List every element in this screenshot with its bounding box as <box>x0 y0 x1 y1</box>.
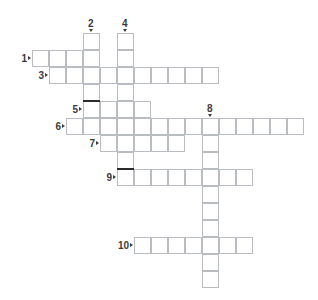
crossword-cell[interactable] <box>202 203 219 220</box>
crossword-cell[interactable] <box>202 186 219 203</box>
crossword-cell[interactable] <box>134 135 151 152</box>
crossword-cell[interactable] <box>134 237 151 254</box>
clue-number-2-down: 2 <box>88 19 94 29</box>
arrow-down-icon <box>208 114 212 117</box>
block-bar <box>83 100 100 102</box>
crossword-cell[interactable] <box>151 169 168 186</box>
crossword-cell[interactable] <box>49 50 66 67</box>
crossword-cell[interactable] <box>66 67 83 84</box>
crossword-cell[interactable] <box>32 50 49 67</box>
clue-number-7-across: 7 <box>81 139 95 149</box>
crossword-cell[interactable] <box>236 237 253 254</box>
crossword-cell[interactable] <box>219 118 236 135</box>
crossword-cell[interactable] <box>253 118 270 135</box>
crossword-cell[interactable] <box>117 169 134 186</box>
crossword-cell[interactable] <box>202 220 219 237</box>
arrow-down-icon <box>123 29 127 32</box>
crossword-cell[interactable] <box>117 135 134 152</box>
crossword-cell[interactable] <box>202 67 219 84</box>
crossword-cell[interactable] <box>202 271 219 288</box>
arrow-right-icon <box>79 107 82 111</box>
clue-number-1-across: 1 <box>13 54 27 64</box>
arrow-right-icon <box>96 141 99 145</box>
crossword-cell[interactable] <box>168 169 185 186</box>
crossword-cell[interactable] <box>100 101 117 118</box>
crossword-cell[interactable] <box>134 118 151 135</box>
crossword-cell[interactable] <box>100 67 117 84</box>
crossword-cell[interactable] <box>185 169 202 186</box>
crossword-cell[interactable] <box>117 50 134 67</box>
crossword-cell[interactable] <box>202 135 219 152</box>
arrow-right-icon <box>62 124 65 128</box>
clue-number-8-down: 8 <box>207 104 213 114</box>
crossword-cell[interactable] <box>83 33 100 50</box>
crossword-cell[interactable] <box>202 118 219 135</box>
crossword-cell[interactable] <box>100 118 117 135</box>
crossword-cell[interactable] <box>117 101 134 118</box>
crossword-cell[interactable] <box>134 169 151 186</box>
arrow-down-icon <box>89 29 93 32</box>
crossword-cell[interactable] <box>151 67 168 84</box>
crossword-cell[interactable] <box>185 67 202 84</box>
crossword-cell[interactable] <box>168 135 185 152</box>
clue-number-9-across: 9 <box>98 173 112 183</box>
crossword-cell[interactable] <box>202 169 219 186</box>
arrow-right-icon <box>45 73 48 77</box>
crossword-cell[interactable] <box>117 33 134 50</box>
arrow-right-icon <box>28 56 31 60</box>
crossword-cell[interactable] <box>49 67 66 84</box>
block-bar <box>117 168 134 170</box>
clue-number-6-across: 6 <box>47 122 61 132</box>
crossword-cell[interactable] <box>219 169 236 186</box>
crossword-cell[interactable] <box>168 237 185 254</box>
crossword-cell[interactable] <box>151 118 168 135</box>
crossword-cell[interactable] <box>202 254 219 271</box>
crossword-cell[interactable] <box>83 84 100 101</box>
crossword-cell[interactable] <box>151 237 168 254</box>
crossword-cell[interactable] <box>202 237 219 254</box>
crossword-grid[interactable]: 12345678910 <box>0 0 318 300</box>
arrow-right-icon <box>130 243 133 247</box>
crossword-cell[interactable] <box>287 118 304 135</box>
crossword-cell[interactable] <box>134 67 151 84</box>
arrow-right-icon <box>113 175 116 179</box>
crossword-cell[interactable] <box>202 152 219 169</box>
clue-number-10-across: 10 <box>115 241 129 251</box>
clue-number-4-down: 4 <box>122 19 128 29</box>
crossword-cell[interactable] <box>117 67 134 84</box>
crossword-cell[interactable] <box>168 67 185 84</box>
crossword-cell[interactable] <box>236 169 253 186</box>
crossword-cell[interactable] <box>83 50 100 67</box>
crossword-cell[interactable] <box>168 118 185 135</box>
crossword-cell[interactable] <box>83 118 100 135</box>
crossword-cell[interactable] <box>151 135 168 152</box>
crossword-cell[interactable] <box>83 67 100 84</box>
clue-number-3-across: 3 <box>30 71 44 81</box>
crossword-cell[interactable] <box>117 118 134 135</box>
crossword-cell[interactable] <box>185 237 202 254</box>
crossword-cell[interactable] <box>66 118 83 135</box>
crossword-cell[interactable] <box>185 118 202 135</box>
crossword-cell[interactable] <box>66 50 83 67</box>
crossword-cell[interactable] <box>219 237 236 254</box>
crossword-cell[interactable] <box>117 152 134 169</box>
crossword-cell[interactable] <box>236 118 253 135</box>
crossword-cell[interactable] <box>134 101 151 118</box>
crossword-cell[interactable] <box>100 135 117 152</box>
crossword-cell[interactable] <box>117 84 134 101</box>
crossword-cell[interactable] <box>270 118 287 135</box>
clue-number-5-across: 5 <box>64 105 78 115</box>
crossword-cell[interactable] <box>83 101 100 118</box>
